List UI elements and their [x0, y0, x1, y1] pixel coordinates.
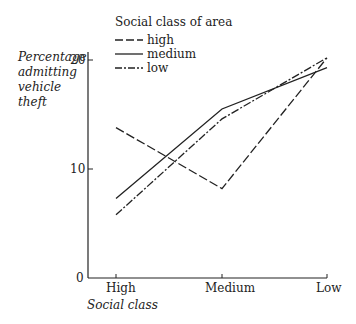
y-tick-label: 10: [70, 162, 85, 176]
series-lines: [116, 58, 327, 215]
x-tick-label: Medium: [205, 281, 255, 295]
x-axis-label: Social class: [87, 298, 158, 312]
y-axis: [88, 52, 93, 278]
series-line-medium: [116, 68, 327, 199]
plot-area: [0, 0, 356, 324]
x-tick-label: Low: [316, 281, 341, 295]
x-tick-label: High: [106, 281, 136, 295]
x-axis: [88, 274, 327, 278]
series-line-low: [116, 58, 327, 215]
y-tick-label: 0: [76, 271, 84, 285]
y-tick-label: 20: [70, 53, 85, 67]
series-line-high: [116, 58, 327, 189]
